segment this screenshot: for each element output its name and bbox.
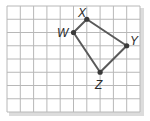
vertex-point-z — [98, 70, 103, 75]
label-x: X — [77, 6, 87, 20]
vertex-point-y — [124, 43, 129, 48]
grid-figure: X W Y Z — [0, 0, 150, 121]
vertex-point-w — [71, 30, 76, 35]
label-y: Y — [130, 34, 139, 48]
label-z: Z — [94, 78, 103, 92]
diagram-canvas: X W Y Z — [0, 0, 150, 121]
label-w: W — [57, 26, 70, 40]
